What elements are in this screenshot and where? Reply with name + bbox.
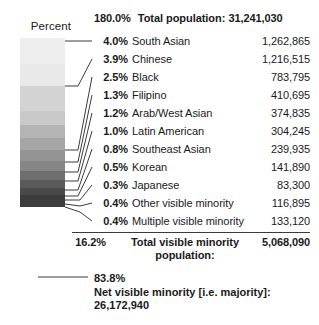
row-percent: 4.0% [94,35,128,47]
table-row: 1.2% Arab/West Asian 374,835 [94,107,310,119]
row-label: Southeast Asian [128,143,271,155]
row-percent: 0.5% [94,161,128,173]
row-percent: 1.0% [94,125,128,137]
row-label: Korean [128,161,271,173]
row-percent: 0.8% [94,143,128,155]
row-label: Filipino [128,89,271,101]
row-label: Japanese [128,179,277,191]
table-row: 0.4% Other visible minority 116,895 [94,197,310,209]
row-percent: 0.4% [94,215,128,227]
row-percent: 3.9% [94,53,128,65]
row-value: 116,895 [272,197,310,209]
visible-minority-legend-chart: Percent 18 [0,0,319,325]
row-value: 239,935 [271,143,310,155]
row-value: 783,795 [271,71,310,83]
row-label: Chinese [128,53,262,65]
footer-block: 83.8% Net visible minority [i.e. majorit… [94,272,314,313]
row-label: Other visible minority [128,197,272,209]
table-row: 0.4% Multiple visible minority 133,120 [94,215,310,227]
row-label: Multiple visible minority [128,215,271,227]
row-value: 374,835 [271,107,310,119]
table-row: 4.0% South Asian 1,262,865 [94,35,310,47]
summary-row: 16.2% Total visible minority population:… [72,236,310,262]
table-row: 2.5% Black 783,795 [94,71,310,83]
table-row: 1.3% Filipino 410,695 [94,89,310,101]
header-row: 180.0% Total population: 31,241,030 [94,12,310,24]
row-label: Arab/West Asian [128,107,271,119]
row-value: 1,262,865 [262,35,310,47]
table-row: 3.9% Chinese 1,216,515 [94,53,310,65]
footer-label: Net visible minority [i.e. majority]: [94,286,314,300]
table-row: 0.3% Japanese 83,300 [94,179,310,191]
summary-percent: 16.2% [72,236,106,248]
row-percent: 0.4% [94,197,128,209]
row-percent: 2.5% [94,71,128,83]
summary-value: 5,068,090 [260,236,310,248]
row-value: 83,300 [277,179,310,191]
summary-label: Total visible minority population: [106,236,260,262]
row-label: Black [128,71,271,83]
header-value: 31,241,030 [228,12,282,24]
table-row: 0.8% Southeast Asian 239,935 [94,143,310,155]
table-row: 0.5% Korean 141,890 [94,161,310,173]
row-value: 304,245 [271,125,310,137]
row-label: South Asian [128,35,262,47]
row-percent: 1.2% [94,107,128,119]
row-label: Latin American [128,125,271,137]
footer-value: 26,172,940 [94,299,314,313]
row-value: 133,120 [271,215,310,227]
row-percent: 0.3% [94,179,128,191]
footer-percent: 83.8% [94,272,314,286]
header-label: Total population: [134,12,226,24]
table-row: 1.0% Latin American 304,245 [94,125,310,137]
summary-divider [72,232,310,233]
row-value: 410,695 [271,89,310,101]
header-percent: 180.0% [94,12,131,24]
row-value: 141,890 [271,161,310,173]
row-value: 1,216,515 [262,53,310,65]
row-percent: 1.3% [94,89,128,101]
